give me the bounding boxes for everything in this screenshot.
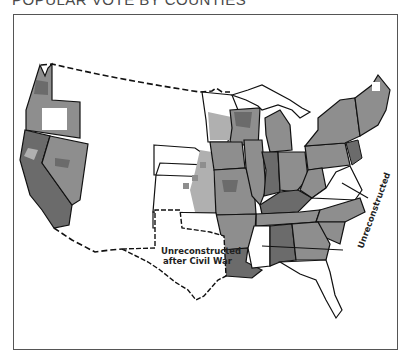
region-pacific-northwest (26, 64, 80, 138)
canada-border (41, 64, 230, 92)
state-michigan (265, 110, 292, 152)
label-unreconstructed-texas-line1: Unreconstructed (161, 246, 241, 256)
region-plains (153, 145, 216, 213)
state-north-carolina (316, 198, 365, 222)
region-california-nevada (20, 130, 88, 228)
state-florida (280, 260, 342, 318)
state-pennsylvania (305, 143, 350, 170)
state-iowa (210, 142, 245, 170)
us-county-vote-map: Unreconstructed after Civil War Unrecons… (0, 0, 413, 357)
mexico-border-west (54, 228, 122, 252)
label-unreconstructed-texas-line2: after Civil War (163, 256, 233, 266)
state-new-york (305, 98, 360, 146)
